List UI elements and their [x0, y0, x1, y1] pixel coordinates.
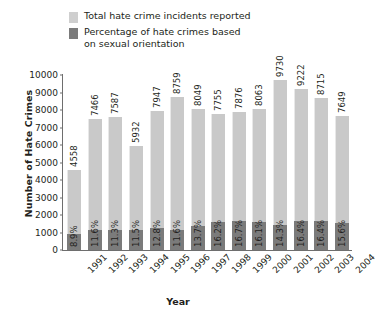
x-tick-label: 1994 [148, 252, 171, 275]
legend-label-percentage: Percentage of hate crimes based on sexua… [84, 26, 241, 49]
bar-value-label: 7587 [110, 93, 120, 115]
bar-value-label: 8715 [316, 73, 326, 95]
y-tick-label: 9000 [35, 88, 63, 98]
bar-column[interactable]: 804913.7% [191, 75, 205, 250]
y-tick-label: 4000 [35, 175, 63, 185]
bar-percentage-label: 8.9% [69, 225, 79, 247]
bar-column[interactable]: 758711.3% [108, 75, 122, 250]
bar-column[interactable]: 922216.4% [294, 75, 308, 250]
x-tick-label: 2003 [333, 252, 356, 275]
bar-value-label: 9222 [296, 64, 306, 86]
x-tick-label: 1999 [251, 252, 274, 275]
bar-value-label: 9730 [275, 55, 285, 77]
bar-column[interactable]: 973014.3% [273, 75, 287, 250]
y-tick-label: 1000 [35, 228, 63, 238]
y-tick-label: 5000 [35, 158, 63, 168]
x-axis-line [62, 250, 352, 251]
bar-percentage-label: 16.2% [213, 220, 223, 247]
y-tick-label: 7000 [35, 123, 63, 133]
x-tick-label: 1997 [209, 252, 232, 275]
bar-percentage-label: 11.3% [110, 220, 120, 247]
bar-column[interactable]: 775516.2% [211, 75, 225, 250]
bar-percentage-label: 12.8% [152, 220, 162, 247]
y-tick-label: 6000 [35, 140, 63, 150]
bar-percentage-label: 16.7% [234, 220, 244, 247]
bar-percentage-label: 11.5% [131, 220, 141, 247]
bar-column[interactable]: 871516.4% [314, 75, 328, 250]
x-tick-label: 1991 [86, 252, 109, 275]
plot-area: 0100020003000400050006000700080009000100… [63, 75, 351, 250]
bar-value-label: 8759 [172, 72, 182, 94]
bar-column[interactable]: 45588.9% [67, 75, 81, 250]
x-tick-label: 2002 [312, 252, 335, 275]
bar-column[interactable]: 806316.1% [252, 75, 266, 250]
bar-percentage-label: 11.6% [90, 220, 100, 247]
x-tick-label: 2000 [271, 252, 294, 275]
bar-value-label: 7649 [337, 92, 347, 114]
bar-value-label: 5932 [131, 122, 141, 144]
x-tick-label: 1995 [168, 252, 191, 275]
bar-group: 45588.9%746611.6%758711.3%593211.5%79471… [63, 75, 351, 250]
bar-column[interactable]: 593211.5% [129, 75, 143, 250]
legend-item-percentage: Percentage of hate crimes based on sexua… [68, 26, 251, 49]
y-tick-label: 10000 [29, 70, 63, 80]
bar-percentage-label: 15.6% [337, 220, 347, 247]
bar-percentage-label: 16.4% [316, 220, 326, 247]
x-tick-label: 1993 [127, 252, 150, 275]
bar-column[interactable]: 794712.8% [150, 75, 164, 250]
bar-percentage-label: 14.3% [275, 220, 285, 247]
bar-percentage-label: 16.4% [296, 220, 306, 247]
legend-item-total: Total hate crime incidents reported [68, 10, 251, 24]
bar-column[interactable]: 787616.7% [232, 75, 246, 250]
bar-value-label: 8049 [193, 85, 203, 107]
y-tick-label: 3000 [35, 193, 63, 203]
bar-column[interactable]: 746611.6% [88, 75, 102, 250]
bar-percentage-label: 13.7% [193, 220, 203, 247]
x-axis-ticks: 1991199219931994199519961997199819992000… [63, 252, 351, 296]
bar-value-label: 4558 [69, 146, 79, 168]
legend-label-total: Total hate crime incidents reported [84, 10, 251, 22]
bar-value-label: 7876 [234, 88, 244, 110]
chart-legend: Total hate crime incidents reported Perc… [68, 10, 251, 51]
x-tick-label: 1996 [189, 252, 212, 275]
x-tick-label: 2004 [353, 252, 376, 275]
bar-value-label: 8063 [254, 84, 264, 106]
x-tick-label: 1998 [230, 252, 253, 275]
bar-value-label: 7466 [90, 95, 100, 117]
bar-column[interactable]: 875911.6% [170, 75, 184, 250]
bar-value-label: 7755 [213, 90, 223, 112]
bar-column[interactable]: 764915.6% [335, 75, 349, 250]
y-axis-title: Number of Hate Crimes [23, 79, 34, 229]
legend-swatch-total [68, 11, 79, 24]
bar-percentage-label: 11.6% [172, 220, 182, 247]
bar-value-label: 7947 [152, 86, 162, 108]
x-tick-label: 2001 [292, 252, 315, 275]
legend-swatch-percentage [68, 27, 79, 40]
bar-percentage-label: 16.1% [254, 220, 264, 247]
y-tick-label: 2000 [35, 210, 63, 220]
x-axis-title: Year [0, 296, 356, 307]
y-tick-label: 8000 [35, 105, 63, 115]
x-tick-label: 1992 [107, 252, 130, 275]
